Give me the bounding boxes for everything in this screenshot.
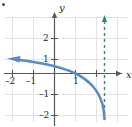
x-tick-label-neg2: –2 [5, 77, 15, 86]
x-tick-label-1: 1 [73, 77, 79, 86]
curve-series [7, 56, 105, 119]
x-axis-arrowhead [116, 71, 122, 76]
y-tick-label-neg1: –1 [39, 90, 49, 99]
asymptote-arrowhead [102, 15, 107, 22]
y-tick-label-2: 2 [43, 34, 49, 43]
graph-figure: –2 –1 1 2 1 –1 –2 y x [0, 0, 132, 127]
y-axis-label: y [59, 3, 65, 13]
y-tick-label-1: 1 [43, 55, 49, 64]
function-curve [18, 60, 105, 119]
x-tick-label-neg1: –1 [26, 77, 36, 86]
y-tick-label-neg2: –2 [39, 111, 49, 120]
x-axis-label: x [126, 70, 132, 80]
plot-canvas [0, 0, 132, 127]
y-axis-arrowhead [52, 12, 57, 18]
